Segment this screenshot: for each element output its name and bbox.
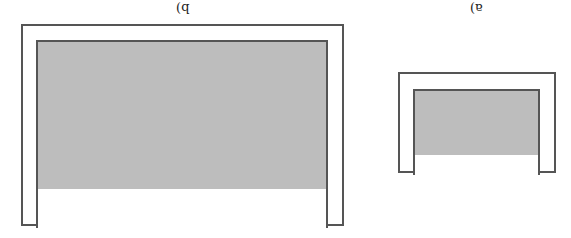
figure-b-gray-fill — [38, 42, 326, 189]
figure-a-gray-fill — [415, 91, 538, 155]
figure-b-gap — [38, 189, 326, 229]
figure-b-label: b) — [176, 2, 189, 15]
figure-a-gap — [415, 155, 538, 175]
figure-a-label: a) — [470, 2, 483, 15]
